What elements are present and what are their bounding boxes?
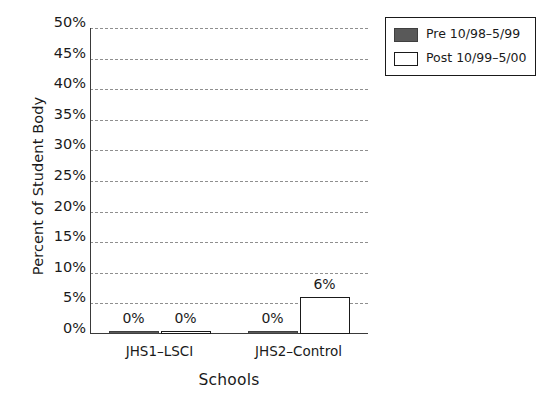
bar-pre: [109, 331, 159, 335]
y-tick-label: 35%: [34, 107, 86, 122]
plot-area: 0%0%0%6%: [90, 28, 368, 334]
bar-post: [300, 297, 350, 334]
x-tick-label: JHS1–LSCI: [126, 345, 194, 359]
y-tick-label: 20%: [34, 198, 86, 213]
x-tick-label: JHS2–Control: [255, 345, 342, 359]
bar-post: [161, 331, 211, 335]
legend-item: Pre 10/98–5/99: [394, 25, 526, 44]
y-tick-label: 45%: [34, 45, 86, 60]
post-swatch: [394, 52, 418, 66]
y-tick-label: 50%: [34, 15, 86, 30]
x-axis-title: Schools: [90, 371, 368, 389]
y-tick-label: 15%: [34, 229, 86, 244]
bar-value-label: 0%: [122, 311, 144, 325]
y-tick-label: 30%: [34, 137, 86, 152]
bar-value-label: 0%: [261, 311, 283, 325]
y-tick-label: 25%: [34, 168, 86, 183]
legend-item: Post 10/99–5/00: [394, 49, 526, 68]
bar-pre: [248, 331, 298, 335]
y-tick-label: 10%: [34, 260, 86, 275]
y-tick-label: 40%: [34, 76, 86, 91]
bar-series-container: 0%0%0%6%: [90, 28, 368, 334]
legend: Pre 10/98–5/99Post 10/99–5/00: [385, 17, 536, 76]
legend-label: Post 10/99–5/00: [426, 52, 526, 65]
y-tick-label: 0%: [34, 321, 86, 336]
y-axis-tick-labels: 0%5%10%15%20%25%30%35%40%45%50%: [34, 22, 86, 334]
legend-label: Pre 10/98–5/99: [426, 28, 520, 41]
pre-swatch: [394, 28, 418, 42]
y-tick-label: 5%: [34, 290, 86, 305]
bar-value-label: 0%: [174, 311, 196, 325]
bar-value-label: 6%: [313, 277, 335, 291]
